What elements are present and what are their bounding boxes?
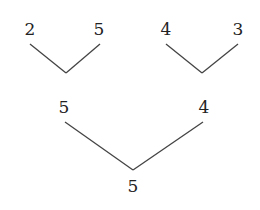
comparison-tree-diagram: 2 5 4 3 5 4 5 <box>0 0 260 210</box>
node-5: 5 <box>94 19 105 39</box>
root-node: 5 <box>128 176 139 196</box>
node-4-level2: 4 <box>199 97 210 117</box>
edge-line <box>166 44 202 73</box>
node-2: 2 <box>25 19 36 39</box>
edge-line <box>133 122 203 170</box>
pair-1: 2 5 <box>25 19 105 73</box>
edge-line <box>65 122 133 170</box>
node-5-level2: 5 <box>59 97 70 117</box>
edge-line <box>66 44 100 73</box>
edge-line <box>30 44 66 73</box>
node-4: 4 <box>161 19 172 39</box>
edge-line <box>202 44 238 73</box>
final-pair: 5 4 5 <box>59 97 210 196</box>
node-3: 3 <box>233 19 244 39</box>
pair-2: 4 3 <box>161 19 244 73</box>
